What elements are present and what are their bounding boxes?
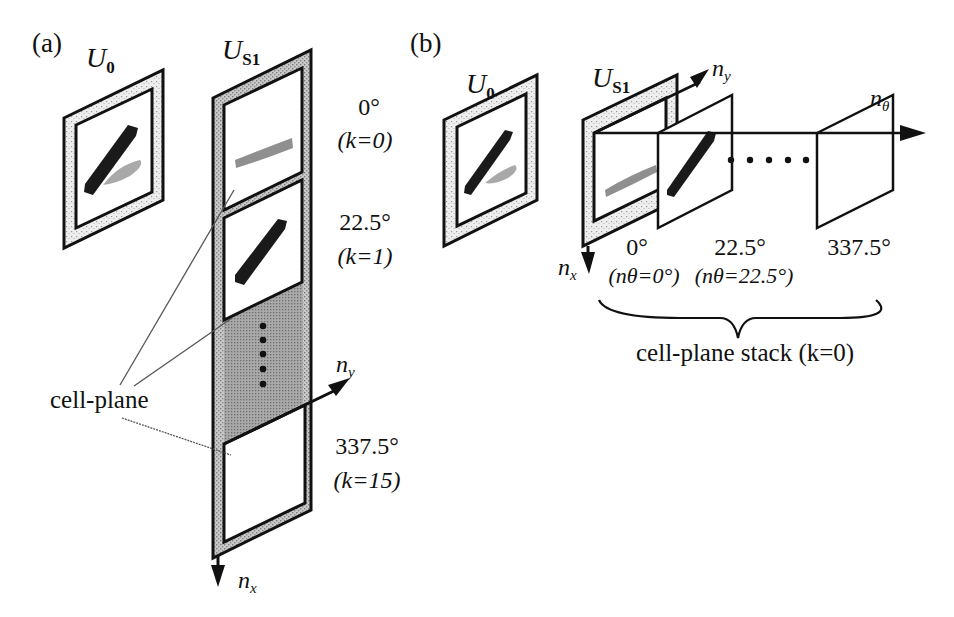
panel-b-nx-label: nx [558, 255, 577, 283]
b-plane-angle-337: 337.5° [814, 235, 904, 259]
panel-a-nx-label: nx [238, 568, 257, 596]
plane-angle-15: 337.5° [322, 434, 412, 458]
plane-k-15: (k=15) [322, 468, 412, 492]
b-nx-arrowhead-icon [581, 252, 595, 274]
nx-arrowhead-icon [211, 565, 225, 587]
b-plane-ntheta-1: (nθ=22.5°) [684, 265, 804, 287]
stack-brace [599, 300, 881, 338]
panel-b-ny-label: ny [712, 56, 731, 84]
panel-b-u0-label: U0 [466, 70, 495, 102]
ntheta-arrowhead-icon [900, 125, 926, 141]
plane-k-0: (k=0) [325, 128, 405, 152]
plane-angle-0: 0° [334, 95, 404, 119]
cell-plane-callout: cell-plane [50, 387, 149, 412]
panel-b-label: (b) [410, 30, 441, 57]
panel-a-label: (a) [32, 30, 62, 57]
b-plane-angle-1: 22.5° [700, 235, 780, 259]
stack-caption: cell-plane stack (k=0) [636, 340, 854, 365]
b-plane-angle-0: 0° [612, 235, 662, 259]
panel-b-ntheta-label: nθ [870, 86, 889, 114]
panel-a-ny-label: ny [336, 352, 355, 380]
panel-a-u0-layer [64, 70, 163, 248]
panel-a-u0-label: U0 [86, 44, 115, 76]
plane-k-1: (k=1) [325, 244, 405, 268]
panel-b-us1-label: US1 [592, 64, 630, 96]
plane-angle-1: 22.5° [325, 210, 405, 234]
panel-a-us1-label: US1 [222, 36, 260, 68]
b-plane-ntheta-0: (nθ=0°) [594, 265, 694, 287]
